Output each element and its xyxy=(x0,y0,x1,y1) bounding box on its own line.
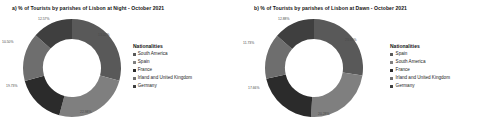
legend-swatch-icon xyxy=(390,69,393,72)
data-label: 11.73% xyxy=(243,41,254,45)
chart-title-dawn: b) % of Tourists by parishes of Lisbon a… xyxy=(254,5,407,11)
legend-label: Irland and United Kingdom xyxy=(396,76,450,81)
legend-swatch-icon xyxy=(133,53,136,56)
donut-segment[interactable] xyxy=(314,19,363,76)
legend-label: Spain xyxy=(396,52,408,57)
data-label: 12.57% xyxy=(38,17,50,21)
legend-item-south-america[interactable]: South America xyxy=(390,60,450,65)
legend-title-dawn: Nationalities xyxy=(390,43,450,49)
data-label: 13.02% xyxy=(98,33,110,37)
data-label: 23.69% xyxy=(345,38,357,42)
legend-title-night: Nationalities xyxy=(133,43,192,49)
legend-label: Spain xyxy=(138,60,150,65)
legend-label: Germany xyxy=(396,84,415,89)
legend-label: South America xyxy=(138,52,168,57)
donut-chart-dawn xyxy=(264,18,364,118)
legend-item-irland-uk[interactable]: Irland and United Kingdom xyxy=(133,76,192,81)
legend-item-irland-uk[interactable]: Irland and United Kingdom xyxy=(390,76,450,81)
legend-swatch-icon xyxy=(390,77,393,80)
legend-item-france[interactable]: France xyxy=(390,68,450,73)
legend-swatch-icon xyxy=(133,85,136,88)
legend-item-germany[interactable]: Germany xyxy=(390,84,450,89)
legend-label: South America xyxy=(396,60,426,65)
donut-segment[interactable] xyxy=(25,76,65,116)
chart-panel-night: a) % of Tourists by parishes of Lisbon a… xyxy=(0,0,242,126)
legend-item-france[interactable]: France xyxy=(133,68,192,73)
figure-container: a) % of Tourists by parishes of Lisbon a… xyxy=(0,0,484,126)
legend-swatch-icon xyxy=(390,53,393,56)
legend-item-spain[interactable]: Spain xyxy=(133,60,192,65)
legend-swatch-icon xyxy=(133,69,136,72)
donut-segment[interactable] xyxy=(311,72,362,117)
legend-item-spain[interactable]: Spain xyxy=(390,52,450,57)
legend-swatch-icon xyxy=(133,77,136,80)
data-label: 20.28% xyxy=(318,112,330,116)
donut-segment[interactable] xyxy=(72,19,121,81)
legend-night: Nationalities South America Spain France… xyxy=(133,43,192,92)
data-label: 22.98% xyxy=(80,110,92,114)
legend-dawn: Nationalities Spain South America France… xyxy=(390,43,450,92)
legend-swatch-icon xyxy=(390,61,393,64)
legend-item-germany[interactable]: Germany xyxy=(133,84,192,89)
data-label: 12.88% xyxy=(278,17,290,21)
chart-title-night: a) % of Tourists by parishes of Lisbon a… xyxy=(12,5,164,11)
legend-label: Germany xyxy=(138,84,157,89)
legend-label: France xyxy=(138,68,152,73)
legend-swatch-icon xyxy=(390,85,393,88)
legend-label: Irland and United Kingdom xyxy=(138,76,192,81)
donut-svg-dawn xyxy=(264,18,364,118)
donut-segments-dawn xyxy=(265,19,363,117)
data-label: 10.50% xyxy=(2,40,14,44)
legend-swatch-icon xyxy=(133,61,136,64)
legend-item-south-america[interactable]: South America xyxy=(133,52,192,57)
legend-label: France xyxy=(396,68,410,73)
data-label: 17.66% xyxy=(248,86,260,90)
data-label: 19.73% xyxy=(6,84,18,88)
donut-segment[interactable] xyxy=(266,74,312,117)
